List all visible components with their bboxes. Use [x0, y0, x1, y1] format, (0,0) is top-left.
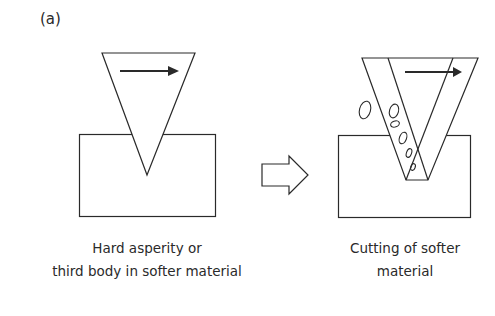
caption-right-line2: material [330, 260, 480, 283]
caption-left-line2: third body in softer material [27, 260, 267, 283]
caption-right-line1: Cutting of softer [330, 237, 480, 260]
caption-right: Cutting of softer material [330, 237, 480, 283]
left-stage [80, 53, 216, 217]
right-stage [339, 58, 479, 218]
caption-left: Hard asperity or third body in softer ma… [27, 237, 267, 283]
asperity-start-position [362, 58, 478, 180]
caption-left-line1: Hard asperity or [27, 237, 267, 260]
transition-arrow-icon [262, 156, 308, 194]
panel-label: (a) [40, 10, 61, 28]
